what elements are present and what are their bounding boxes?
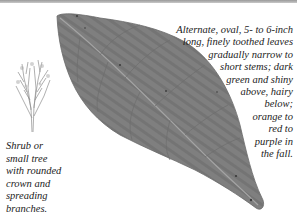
form-description-line: crown and <box>6 178 66 191</box>
shrub-illustration <box>12 58 56 132</box>
field-guide-panel: Alternate, oval, 5- to 6-inch long, fine… <box>0 0 297 224</box>
leaf-description-line: above, hairy <box>163 86 293 98</box>
leaf-description-line: long, finely toothed leaves <box>163 36 293 48</box>
form-description-line: small tree <box>6 153 66 166</box>
form-description-line: spreading <box>6 190 66 203</box>
leaf-description-line: below; <box>163 98 293 110</box>
leaf-description-line: purple in <box>163 136 293 148</box>
leaf-description-line: Alternate, oval, 5- to 6-inch <box>163 24 293 36</box>
leaf-description-line: gradually narrow to <box>163 49 293 61</box>
leaf-description-line: orange to <box>163 111 293 123</box>
form-description-line: branches. <box>6 203 66 216</box>
form-description-line: with rounded <box>6 165 66 178</box>
leaf-description: Alternate, oval, 5- to 6-inch long, fine… <box>163 24 293 160</box>
form-description: Shrub or small tree with rounded crown a… <box>6 140 66 216</box>
leaf-description-line: red to <box>163 123 293 135</box>
leaf-description-line: short stems; dark <box>163 61 293 73</box>
leaf-description-line: the fall. <box>163 148 293 160</box>
form-description-line: Shrub or <box>6 140 66 153</box>
shrub-icon <box>12 58 56 132</box>
leaf-description-line: green and shiny <box>163 74 293 86</box>
